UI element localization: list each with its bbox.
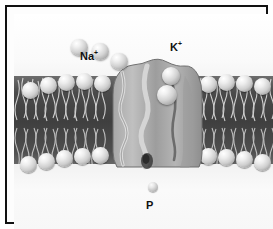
diagram-scene: Na+ K+ P — [14, 14, 273, 229]
phospholipid-head — [218, 74, 235, 91]
phospholipid-head — [40, 77, 57, 94]
potassium-label-text: K — [170, 41, 178, 53]
phospholipid-head — [236, 151, 253, 168]
phosphate-label: P — [146, 200, 153, 211]
sodium-label-charge: + — [94, 49, 98, 56]
figure-frame: Na+ K+ P — [5, 5, 268, 224]
sodium-label-text: Na — [80, 50, 94, 62]
phospholipid-head — [38, 153, 55, 170]
phospholipid-head — [58, 74, 75, 91]
phosphate-label-text: P — [146, 199, 153, 211]
phospholipid-head — [76, 73, 93, 90]
phospholipid-head — [218, 149, 235, 166]
phospholipid-head — [254, 154, 271, 171]
phospholipid-head — [74, 148, 91, 165]
sodium-label: Na+ — [80, 50, 98, 62]
potassium-label: K+ — [170, 41, 182, 53]
phospholipid-head — [56, 150, 73, 167]
figure-container: Na+ K+ P — [0, 0, 273, 229]
phospholipid-head — [236, 75, 253, 92]
phosphate-group — [148, 182, 158, 192]
potassium-ion — [157, 85, 177, 105]
phospholipid-head — [20, 156, 37, 173]
phospholipid-head — [22, 82, 39, 99]
sodium-ion — [111, 53, 128, 70]
phospholipid-head — [254, 78, 271, 95]
potassium-label-charge: + — [178, 40, 182, 47]
transport-protein — [97, 58, 207, 175]
potassium-ion — [162, 67, 180, 85]
